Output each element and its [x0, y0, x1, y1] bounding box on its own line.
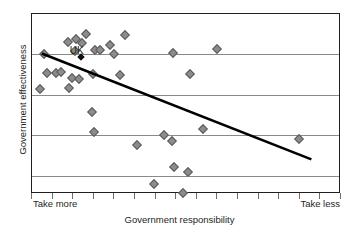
x-axis-tick — [113, 193, 114, 199]
x-axis-tick — [237, 193, 238, 199]
x-axis-tick — [340, 193, 341, 199]
x-axis-tick — [258, 193, 259, 199]
plot-area: UK — [31, 13, 340, 193]
x-axis-tick — [93, 193, 94, 199]
x-axis-tick — [196, 193, 197, 199]
uk-annotation-label: UK — [70, 45, 84, 56]
x-axis-right-label: Take less — [300, 198, 340, 209]
scatter-chart-figure: Government effectiveness UK Take more Ta… — [0, 0, 359, 238]
x-axis-title: Government responsibility — [0, 214, 359, 225]
trendline — [32, 14, 339, 192]
x-axis-tick — [175, 193, 176, 199]
x-axis-tick — [278, 193, 279, 199]
x-axis-tick — [155, 193, 156, 199]
x-axis-tick — [31, 193, 32, 199]
x-axis-left-label: Take more — [33, 198, 77, 209]
x-axis-tick — [216, 193, 217, 199]
y-axis-title: Government effectiveness — [17, 5, 28, 195]
x-axis-tick — [134, 193, 135, 199]
